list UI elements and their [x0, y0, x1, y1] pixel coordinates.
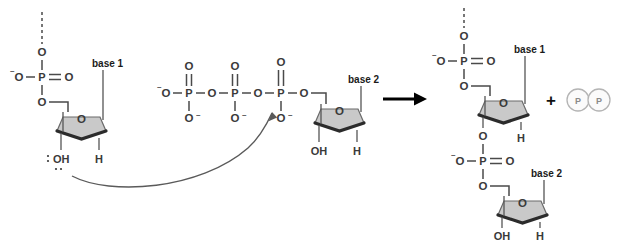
oh-lone-pair-dot-1: [47, 155, 49, 157]
reaction-arrow-group: [383, 93, 427, 106]
bond-product-upper-bottomo-sugar: [471, 86, 490, 96]
product-upper-phosphate-left-o: O: [437, 55, 446, 67]
gamma-p: P: [185, 87, 192, 99]
reaction-arrowhead: [414, 93, 427, 106]
alpha-double-o: O: [277, 56, 286, 68]
product-new-phosphate-bottom-o: O: [479, 180, 488, 192]
product-new-phosphate-left-o: O: [456, 155, 465, 167]
bond-bottomo-sugar: [49, 102, 68, 112]
ester-o-alpha-sugar: O: [300, 87, 309, 99]
product-strand-group: O P – O O O O base 1 O H P –: [432, 8, 563, 242]
oh-lone-pair-dot-4: [60, 168, 62, 170]
beta-p: P: [231, 87, 238, 99]
growing-strand-group: O P – O O O O base 1 OH: [10, 12, 124, 170]
product-lower-sugar-ring-o: O: [518, 197, 527, 209]
left-phosphate-double-o: O: [65, 71, 74, 83]
beta-double-o: O: [231, 60, 240, 72]
product-upper-phosphate-bottom-o: O: [460, 80, 469, 92]
beta-bottom-charge: –: [242, 110, 247, 119]
middle-sugar-ring-o: O: [335, 105, 344, 117]
bridge-o-gamma-beta: O: [208, 87, 217, 99]
left-sugar-3-oh: OH: [53, 153, 70, 165]
oh-lone-pair-dot-2: [47, 160, 49, 162]
base-1-label: base 1: [92, 58, 124, 69]
left-phosphate-bottom-o: O: [38, 96, 47, 108]
gamma-double-o: O: [185, 60, 194, 72]
bond-newbottomo-lowersugar: [490, 186, 509, 196]
product-lower-sugar-3-oh: OH: [494, 230, 511, 242]
left-phosphate-p: P: [38, 71, 45, 83]
pyrophosphate-p-1: P: [575, 96, 581, 106]
alpha-bottom-charge: –: [288, 110, 293, 119]
product-upper-sugar-3-o: O: [479, 130, 488, 142]
alpha-p: P: [277, 87, 284, 99]
beta-bottom-o: O: [231, 112, 240, 124]
product-new-phosphate-double-o: O: [506, 155, 515, 167]
byproduct-group: + P P: [546, 89, 610, 111]
bond-estero-sugar: [311, 93, 326, 104]
gamma-bottom-o: O: [185, 112, 194, 124]
product-base-1-label: base 1: [514, 44, 546, 55]
product-upper-sugar-2-h: H: [517, 132, 525, 144]
gamma-terminal-o: O: [162, 87, 171, 99]
plus-sign: +: [546, 91, 556, 110]
left-sugar-2-h: H: [95, 153, 103, 165]
left-sugar-ring-o: O: [77, 113, 86, 125]
product-upper-phosphate-top-o: O: [460, 30, 469, 42]
reaction-diagram: O P – O O O O base 1 OH: [0, 0, 619, 244]
middle-sugar-2-h: H: [353, 145, 361, 157]
product-upper-phosphate-p: P: [460, 55, 467, 67]
product-upper-sugar-ring-o: O: [499, 97, 508, 109]
bridge-o-beta-alpha: O: [254, 87, 263, 99]
incoming-dntp-group: – O P O O – O P O O – O P O O –: [157, 56, 380, 157]
left-phosphate-top-o: O: [38, 46, 47, 58]
alpha-bottom-o: O: [277, 112, 286, 124]
product-upper-phosphate-double-o: O: [487, 55, 496, 67]
pyrophosphate-p-2: P: [596, 96, 602, 106]
base-2-label: base 2: [348, 74, 380, 85]
left-phosphate-left-o: O: [15, 71, 24, 83]
oh-lone-pair-dot-3: [55, 168, 57, 170]
product-lower-sugar-2-h: H: [536, 230, 544, 242]
gamma-bottom-charge: –: [196, 110, 201, 119]
product-new-phosphate-p: P: [479, 155, 486, 167]
product-base-2-label: base 2: [531, 168, 563, 179]
middle-sugar-3-oh: OH: [311, 145, 328, 157]
